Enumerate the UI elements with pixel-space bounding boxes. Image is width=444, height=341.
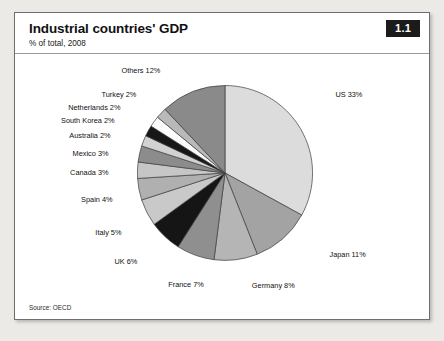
pie-label-france: France 7% (168, 280, 204, 289)
pie-label-canada: Canada 3% (70, 168, 109, 177)
pie-label-italy: Italy 5% (95, 228, 122, 237)
pie-label-japan: Japan 11% (329, 250, 366, 259)
pie-label-netherlands: Netherlands 2% (68, 103, 121, 112)
pie-label-others: Others 12% (121, 66, 160, 75)
pie-slice-group (137, 86, 312, 261)
source-note: Source: OECD (29, 304, 71, 311)
pie-label-us: US 33% (335, 90, 362, 99)
pie-label-turkey: Turkey 2% (102, 90, 137, 99)
pie-label-uk: UK 6% (115, 257, 138, 266)
pie-chart: US 33%Japan 11%Germany 8%France 7%UK 6%I… (15, 13, 429, 319)
pie-label-australia: Australia 2% (69, 131, 111, 140)
figure-panel: Industrial countries' GDP % of total, 20… (14, 12, 430, 320)
pie-label-germany: Germany 8% (252, 281, 295, 290)
pie-label-south-korea: South Korea 2% (61, 116, 115, 125)
pie-label-mexico: Mexico 3% (73, 149, 109, 158)
pie-label-spain: Spain 4% (81, 195, 113, 204)
